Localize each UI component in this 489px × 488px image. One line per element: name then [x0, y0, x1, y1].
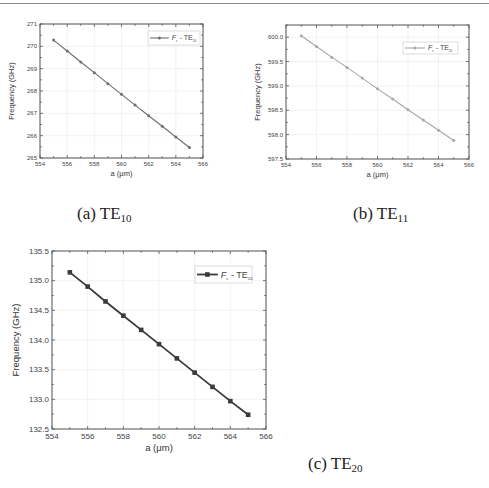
x-tick-label: 562 [188, 432, 202, 441]
y-tick-label: 133.0 [29, 395, 50, 404]
caption-te20: (c) TE20 [308, 454, 363, 474]
legend: Fc - TE11 [403, 42, 458, 54]
x-tick-label: 556 [311, 162, 322, 168]
x-axis-label: a (μm) [145, 442, 173, 453]
x-tick-label: 566 [259, 432, 273, 441]
caption-mode: TE [331, 454, 352, 473]
data-point [246, 412, 251, 417]
data-point [192, 370, 197, 375]
data-point [210, 385, 215, 390]
data-point [103, 299, 108, 304]
legend: Fc - TE20 [195, 266, 253, 283]
y-axis-label: Frequency (GHz) [10, 304, 21, 377]
data-point [85, 284, 90, 289]
caption-sub: 20 [352, 462, 363, 474]
data-point [139, 328, 144, 333]
x-tick-label: 560 [372, 162, 383, 168]
data-point [391, 98, 394, 101]
x-tick-label: 560 [152, 432, 166, 441]
x-tick-label: 566 [464, 162, 475, 168]
caption-te11: (b) TE11 [353, 204, 408, 224]
data-point [422, 119, 425, 122]
x-tick-label: 564 [433, 162, 444, 168]
y-tick-label: 135.0 [29, 276, 50, 285]
y-tick-label: 132.5 [29, 425, 50, 434]
caption-sub: 11 [398, 212, 409, 224]
data-point [315, 45, 318, 48]
data-point [437, 129, 440, 132]
data-point [346, 66, 349, 69]
caption-prefix: (c) [308, 454, 327, 473]
data-point [157, 342, 162, 347]
x-tick-label: 556 [81, 432, 95, 441]
data-point [68, 270, 73, 275]
data-point [175, 356, 180, 361]
x-axis-label: a (μm) [367, 170, 389, 179]
data-point [330, 56, 333, 59]
x-tick-label: 558 [342, 162, 353, 168]
caption-prefix: (b) [353, 204, 373, 223]
x-tick-label: 558 [117, 432, 131, 441]
y-tick-label: 135.5 [29, 247, 50, 256]
data-point [376, 87, 379, 90]
data-point [407, 108, 410, 111]
caption-mode: TE [377, 204, 398, 223]
chart-te20: 554556558560562564566132.5133.0133.5134.… [0, 0, 300, 470]
data-point [361, 77, 364, 80]
data-point [452, 139, 455, 142]
data-point [300, 34, 303, 37]
x-tick-label: 562 [403, 162, 414, 168]
x-tick-label: 564 [224, 432, 238, 441]
data-point [121, 313, 126, 318]
y-tick-label: 133.5 [29, 365, 50, 374]
y-tick-label: 134.0 [29, 336, 50, 345]
y-tick-label: 134.5 [29, 306, 50, 315]
data-point [228, 399, 233, 404]
